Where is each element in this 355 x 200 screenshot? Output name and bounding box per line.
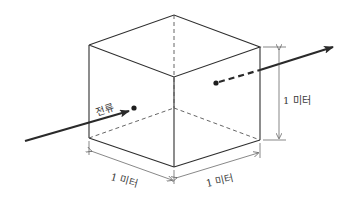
height-label: 1 미터 <box>283 95 311 106</box>
current-out-arrow <box>213 47 333 86</box>
width-dimension <box>176 143 260 178</box>
exit-point-dot <box>213 80 218 85</box>
depth-label: 1 미터 <box>109 171 138 189</box>
current-in-arrow <box>25 105 137 141</box>
unit-cube-diagram: 전류 1 미터 1 미터 1 미터 <box>0 0 355 200</box>
cube-visible-edges <box>89 15 260 167</box>
width-label: 1 미터 <box>205 172 234 189</box>
height-dimension <box>263 47 286 140</box>
entry-point-dot <box>131 105 136 110</box>
